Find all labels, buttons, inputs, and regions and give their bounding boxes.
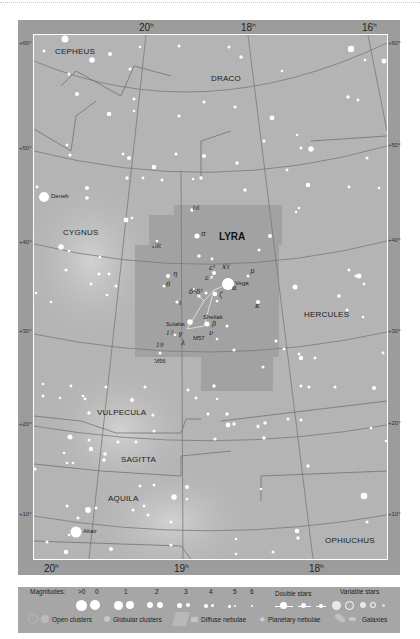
legend-mag-4: 4 (209, 588, 213, 595)
magnitude-dot-1b (126, 601, 134, 609)
ra-label-top-16h: 16h (362, 22, 376, 33)
variable-star-faint-icon (382, 604, 385, 607)
diffuse-nebula-icon-small (191, 617, 198, 622)
dec-label-right-60: +60° (388, 40, 401, 46)
dec-label-left-30: +30° (19, 328, 32, 334)
legend-variable-stars-label: Variable stars (340, 588, 379, 595)
variable-star-min-small-icon (370, 602, 376, 608)
designation-theta: θ (166, 281, 170, 289)
designation-xy: XY (222, 263, 230, 270)
legend-double-stars-label: Double stars (275, 590, 312, 597)
star-label-m56: M56 (154, 358, 166, 364)
designation-delta: δ²δ¹ (189, 288, 203, 296)
designation-nu: ν (209, 329, 213, 337)
diffuse-nebula-icon (172, 612, 190, 626)
magnitude-dot-1a (114, 601, 123, 610)
constellation-aquila: AQUILA (108, 494, 139, 503)
star-label-vega: Vega (235, 280, 249, 286)
star-label-m57: M57 (193, 335, 205, 341)
magnitude-dot-2b (157, 602, 163, 608)
dec-label-right-10: +10° (388, 511, 401, 517)
magnitude-dot-4a (204, 604, 208, 608)
designation-gamma: γ (178, 330, 182, 338)
magnitude-dot-gt0 (76, 600, 87, 611)
dec-label-left-10: +10° (19, 511, 32, 517)
constellation-ophiuchus: OPHIUCHUS (325, 536, 375, 545)
magnitude-dot-5a (228, 605, 231, 608)
galaxy-icon (333, 612, 346, 624)
designation-17: 17 (166, 329, 174, 336)
legend-mag-1: 1 (124, 588, 128, 595)
legend: Magnitudes: >0 0 1 2 3 4 5 6 Double star… (18, 587, 400, 633)
ra-label-top-18h: 18h (241, 22, 255, 33)
designation-eta: η (173, 270, 177, 278)
dec-label-left-50: +50° (19, 145, 32, 151)
chart-graphics (34, 35, 387, 559)
designation-kappa: κ (255, 302, 260, 310)
designation-iota: ι (179, 299, 182, 307)
double-star-dot-small (319, 604, 323, 608)
designation-19: 19 (156, 341, 164, 348)
legend-mag-gt0: >0 (78, 588, 85, 595)
open-cluster-icon-small (41, 615, 49, 623)
globular-cluster-icon (104, 616, 110, 622)
open-cluster-icon (28, 614, 38, 624)
dec-label-right-50: +50° (388, 142, 401, 148)
magnitude-dot-5b (234, 605, 236, 607)
ra-label-top-20h: 20h (139, 22, 153, 33)
designation-16: 16 (192, 204, 200, 211)
legend-mag-0: 0 (95, 588, 99, 595)
variable-star-min-icon (345, 601, 354, 610)
constellation-lyra-title: LYRA (219, 231, 245, 242)
designation-alpha: α (232, 284, 237, 292)
magnitude-dot-2a (147, 602, 153, 608)
double-star-dot-medium (301, 603, 306, 608)
designation-epsilon2: ε² (205, 274, 212, 282)
designation-epsilon1: ε¹ (209, 264, 216, 272)
ra-label-bottom-19h: 19h (174, 563, 188, 574)
double-star-dot-large (280, 602, 287, 609)
designation-pi: π (201, 230, 206, 238)
star-label-deneb: Deneb (51, 193, 69, 199)
variable-star-max-icon (332, 601, 341, 610)
magnitude-dot-3b (186, 603, 190, 607)
designation-rr: RR (152, 242, 161, 249)
ra-label-bottom-20h: 20h (44, 563, 58, 574)
designation-mu: μ (250, 267, 255, 275)
dec-label-left-20: +20° (19, 421, 32, 427)
legend-mag-6: 6 (250, 588, 254, 595)
ra-label-bottom-18h: 18h (309, 563, 323, 574)
star-label-sulafat: Sulafat (166, 321, 185, 327)
dec-label-left-40: +40° (19, 239, 32, 245)
star-chart (33, 34, 388, 560)
legend-mag-3: 3 (184, 588, 188, 595)
dec-label-right-20: +20° (388, 420, 401, 426)
legend-open-clusters-label: Open clusters (52, 616, 92, 623)
star-label-altair: Altair (83, 528, 97, 534)
legend-mag-2: 2 (155, 588, 159, 595)
legend-magnitudes-label: Magnitudes: (30, 588, 65, 595)
constellation-vulpecula: VULPECULA (97, 408, 146, 417)
legend-planetary-nebulae-label: Planetary nebulae (268, 616, 320, 623)
constellation-hercules: HERCULES (304, 310, 349, 319)
planetary-nebula-icon: ✦ (257, 615, 266, 624)
dec-label-right-40: +40° (388, 237, 401, 243)
top-dotted-border (0, 2, 420, 3)
magnitude-dot-6 (251, 605, 253, 607)
constellation-cygnus: CYGNUS (63, 228, 98, 237)
magnitude-dot-3a (177, 603, 182, 608)
legend-mag-5: 5 (233, 588, 237, 595)
designation-beta: β (212, 320, 216, 328)
dec-label-right-30: +30° (388, 328, 401, 334)
constellation-draco: DRACO (211, 74, 241, 83)
magnitude-dot-4b (211, 604, 214, 607)
galaxy-icon-small (349, 617, 356, 621)
constellation-sagitta: SAGITTA (121, 455, 156, 464)
legend-galaxies-label: Galaxies (362, 616, 387, 623)
legend-globular-clusters-label: Globular clusters (113, 616, 162, 623)
legend-diffuse-nebulae-label: Diffuse nebulae (201, 616, 246, 623)
designation-lambda: λ (181, 339, 185, 347)
constellation-cepheus: CEPHEUS (55, 47, 95, 56)
variable-star-max-small-icon (360, 602, 366, 608)
magnitude-dot-0 (90, 600, 100, 610)
